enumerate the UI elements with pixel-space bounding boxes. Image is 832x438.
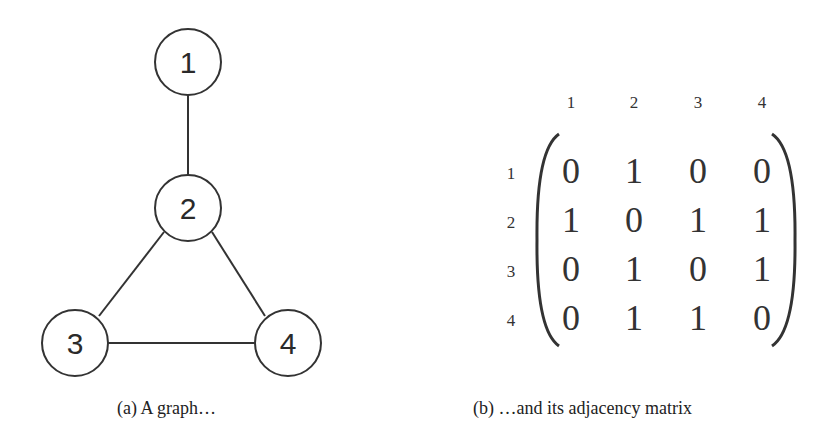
matrix-row-labels: 1 2 3 4	[507, 164, 516, 330]
node-2: 2	[155, 175, 221, 241]
row-label: 4	[507, 311, 516, 330]
caption-b: (b) …and its adjacency matrix	[473, 398, 692, 419]
svg-text:1: 1	[180, 46, 197, 79]
cell: 0	[562, 151, 580, 191]
cell: 1	[625, 151, 643, 191]
col-label: 3	[694, 93, 703, 112]
row-label: 1	[507, 164, 516, 183]
row-label: 2	[507, 213, 516, 232]
cell: 1	[625, 249, 643, 289]
node-3: 3	[42, 310, 108, 376]
caption-a: (a) A graph…	[117, 398, 216, 419]
col-label: 2	[630, 93, 639, 112]
cell: 1	[625, 298, 643, 338]
cell: 0	[689, 151, 707, 191]
cell: 1	[753, 249, 771, 289]
cell: 1	[562, 200, 580, 240]
left-paren	[537, 134, 559, 346]
edge-2-4	[212, 232, 265, 316]
row-label: 3	[507, 262, 516, 281]
cell: 0	[753, 151, 771, 191]
col-label: 1	[567, 93, 576, 112]
edge-2-3	[99, 232, 164, 316]
cell: 0	[753, 298, 771, 338]
cell: 1	[689, 298, 707, 338]
cell: 0	[562, 249, 580, 289]
matrix-col-labels: 1 2 3 4	[567, 93, 767, 112]
right-paren	[772, 134, 795, 346]
cell: 1	[689, 200, 707, 240]
cell: 0	[625, 200, 643, 240]
cell: 0	[689, 249, 707, 289]
svg-text:2: 2	[180, 192, 197, 225]
figure: 1 2 3 4 1 2 3 4 1 2 3 4 0 1 0 0 1	[0, 0, 832, 438]
svg-text:3: 3	[67, 327, 84, 360]
matrix-cells: 0 1 0 0 1 0 1 1 0 1 0 1 0 1 1 0	[562, 151, 771, 338]
col-label: 4	[758, 93, 767, 112]
svg-text:4: 4	[280, 327, 297, 360]
cell: 0	[562, 298, 580, 338]
node-1: 1	[155, 29, 221, 95]
node-4: 4	[255, 310, 321, 376]
cell: 1	[753, 200, 771, 240]
graph-nodes: 1 2 3 4	[42, 29, 321, 376]
